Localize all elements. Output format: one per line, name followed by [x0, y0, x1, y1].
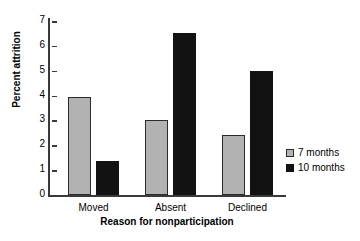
y-axis-title: Percent attrition — [11, 10, 22, 130]
y-axis-line — [48, 18, 50, 196]
x-axis-title: Reason for nonparticipation — [48, 216, 286, 227]
legend-item-7-months: 7 months — [286, 145, 345, 160]
bar-absent-10-months — [173, 33, 196, 195]
bar-moved-7-months — [68, 97, 91, 195]
y-tick-label-1: 1 — [39, 163, 45, 174]
x-tick-label-moved: Moved — [54, 202, 133, 213]
y-tick-label-3: 3 — [39, 113, 45, 124]
bar-chart: Percent attrition 7 6 5 4 3 2 — [0, 0, 360, 241]
bar-moved-10-months — [96, 161, 119, 195]
x-tick-label-declined: Declined — [208, 202, 287, 213]
black-square-swatch-icon — [286, 164, 294, 172]
y-tick-label-6: 6 — [39, 39, 45, 50]
y-tick-label-2: 2 — [39, 138, 45, 149]
legend-item-10-months: 10 months — [286, 160, 345, 175]
plot-area: 7 6 5 4 3 2 1 0 — [48, 18, 280, 196]
bar-declined-7-months — [222, 135, 245, 195]
x-tick-label-absent: Absent — [131, 202, 210, 213]
y-tick-label-5: 5 — [39, 64, 45, 75]
y-tick-label-0: 0 — [39, 188, 45, 199]
gray-square-swatch-icon — [286, 149, 294, 157]
legend-label-7-months: 7 months — [298, 147, 339, 158]
bar-declined-10-months — [250, 71, 273, 195]
y-tick-label-4: 4 — [39, 89, 45, 100]
y-tick-label-7: 7 — [39, 14, 45, 25]
legend: 7 months 10 months — [286, 145, 345, 175]
x-axis-line — [48, 195, 286, 197]
legend-label-10-months: 10 months — [298, 162, 345, 173]
bar-absent-7-months — [145, 120, 168, 195]
